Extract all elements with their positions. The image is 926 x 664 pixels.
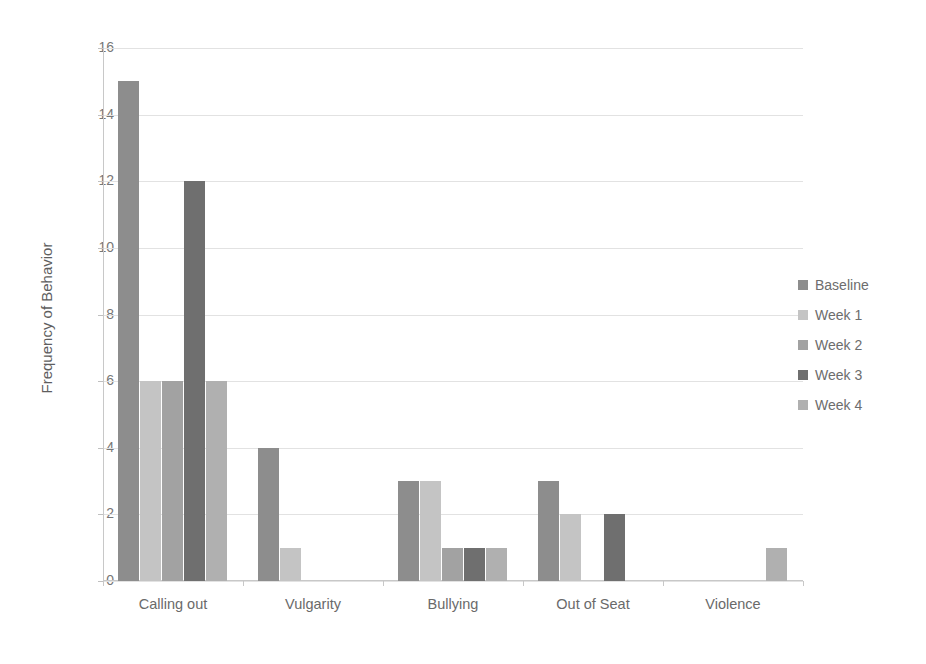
y-axis-line xyxy=(103,48,104,581)
x-axis-tick-mark xyxy=(243,581,244,586)
bar-chart: Frequency of Behavior 0246810121416 Call… xyxy=(0,0,926,664)
bar xyxy=(442,548,463,581)
plot-area xyxy=(103,48,803,581)
y-axis-tick-mark xyxy=(98,514,103,515)
legend-item: Week 1 xyxy=(798,300,918,330)
bar xyxy=(464,548,485,581)
y-axis-tick-mark xyxy=(98,315,103,316)
bar xyxy=(486,548,507,581)
y-axis-tick-mark xyxy=(98,248,103,249)
y-axis-tick-mark xyxy=(98,381,103,382)
bar-cluster xyxy=(258,48,368,581)
x-axis-category-label: Vulgarity xyxy=(243,596,383,612)
legend-swatch xyxy=(798,400,808,410)
legend-swatch xyxy=(798,280,808,290)
bar xyxy=(604,514,625,581)
x-axis-category-label: Out of Seat xyxy=(523,596,663,612)
x-axis-tick-mark xyxy=(523,581,524,586)
legend-swatch xyxy=(798,310,808,320)
legend-label: Baseline xyxy=(815,277,869,293)
y-axis-tick-mark xyxy=(98,115,103,116)
x-axis-tick-mark xyxy=(803,581,804,586)
legend-label: Week 1 xyxy=(815,307,862,323)
x-axis-tick-mark xyxy=(383,581,384,586)
legend-swatch xyxy=(798,340,808,350)
legend-label: Week 2 xyxy=(815,337,862,353)
legend: BaselineWeek 1Week 2Week 3Week 4 xyxy=(798,270,918,420)
bar xyxy=(162,381,183,581)
legend-label: Week 3 xyxy=(815,367,862,383)
bar-cluster xyxy=(118,48,228,581)
y-axis-title-text: Frequency of Behavior xyxy=(38,148,55,488)
bar xyxy=(538,481,559,581)
gridline xyxy=(103,581,803,582)
legend-swatch xyxy=(798,370,808,380)
bar xyxy=(560,514,581,581)
bar xyxy=(398,481,419,581)
bar xyxy=(184,181,205,581)
y-axis-tick-mark xyxy=(98,181,103,182)
x-axis-tick-mark xyxy=(103,581,104,586)
x-axis-tick-mark xyxy=(663,581,664,586)
y-axis-title: Frequency of Behavior xyxy=(38,0,60,148)
bar xyxy=(280,548,301,581)
y-axis-tick-mark xyxy=(98,448,103,449)
bar-cluster xyxy=(678,48,788,581)
legend-item: Week 2 xyxy=(798,330,918,360)
x-axis-category-label: Bullying xyxy=(383,596,523,612)
y-axis-tick-mark xyxy=(98,48,103,49)
bar xyxy=(118,81,139,581)
bar xyxy=(206,381,227,581)
bar xyxy=(140,381,161,581)
bar xyxy=(258,448,279,581)
x-axis-category-label: Violence xyxy=(663,596,803,612)
x-axis-category-label: Calling out xyxy=(103,596,243,612)
bar xyxy=(420,481,441,581)
legend-item: Baseline xyxy=(798,270,918,300)
bar-cluster xyxy=(538,48,648,581)
legend-label: Week 4 xyxy=(815,397,862,413)
bar-cluster xyxy=(398,48,508,581)
legend-item: Week 3 xyxy=(798,360,918,390)
bar xyxy=(766,548,787,581)
legend-item: Week 4 xyxy=(798,390,918,420)
